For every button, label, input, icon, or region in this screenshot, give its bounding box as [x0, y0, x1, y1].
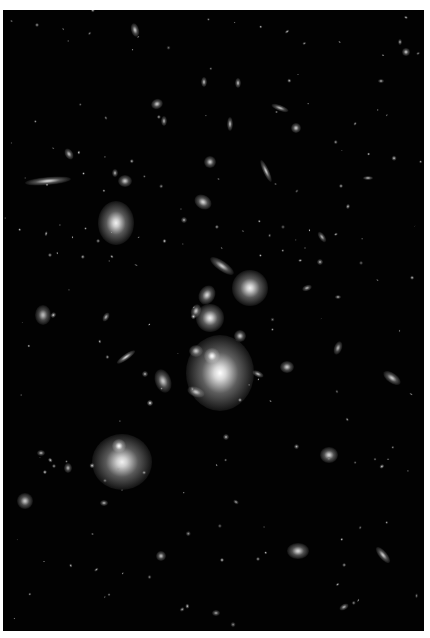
galaxy [373, 457, 377, 461]
galaxy [356, 598, 360, 603]
galaxy [281, 249, 285, 253]
galaxy [391, 445, 395, 449]
galaxy [67, 39, 70, 42]
galaxy [105, 355, 110, 361]
galaxy [256, 557, 260, 561]
galaxy [51, 147, 55, 150]
galaxy [286, 78, 291, 84]
galaxy [100, 500, 108, 506]
galaxy [268, 233, 271, 237]
galaxy [208, 254, 237, 278]
galaxy [71, 236, 73, 239]
galaxy [101, 311, 111, 323]
galaxy [232, 270, 268, 306]
galaxy [186, 531, 191, 536]
galaxy [404, 15, 409, 19]
galaxy [87, 31, 91, 36]
galaxy [335, 582, 340, 586]
galaxy [39, 456, 41, 458]
galaxy [287, 543, 309, 559]
galaxy [335, 389, 339, 394]
galaxy [281, 224, 286, 229]
galaxy [18, 227, 22, 231]
galaxy [332, 340, 344, 356]
galaxy [207, 17, 211, 20]
galaxy [94, 567, 100, 572]
galaxy [295, 189, 300, 194]
galaxy [64, 463, 72, 473]
galaxy [48, 252, 53, 257]
galaxy [208, 67, 212, 71]
galaxy [360, 237, 363, 240]
galaxy [96, 239, 101, 244]
galaxy [134, 263, 138, 267]
galaxy [374, 545, 393, 565]
galaxy [151, 367, 174, 395]
galaxy [103, 595, 106, 599]
galaxy [68, 563, 72, 568]
galaxy [161, 116, 167, 126]
galaxy [33, 120, 37, 124]
galaxy [242, 230, 245, 233]
galaxy [224, 458, 228, 462]
galaxy [262, 526, 265, 529]
galaxy [44, 231, 48, 236]
galaxy [109, 255, 114, 260]
galaxy [385, 114, 389, 118]
galaxy [136, 235, 140, 239]
galaxy [91, 10, 96, 12]
galaxy [259, 25, 263, 29]
galaxy [121, 571, 125, 575]
galaxy [375, 278, 378, 281]
galaxy [234, 22, 236, 24]
galaxy [19, 394, 22, 397]
galaxy [341, 149, 343, 150]
galaxy [304, 247, 306, 249]
galaxy [156, 551, 166, 561]
galaxy [257, 377, 260, 380]
galaxy [129, 158, 134, 163]
galaxy [230, 621, 236, 627]
galaxy [81, 172, 84, 176]
galaxy [339, 184, 343, 188]
galaxy [181, 243, 184, 246]
galaxy [338, 602, 350, 612]
galaxy [206, 114, 208, 116]
galaxy [192, 191, 215, 212]
galaxy [320, 317, 322, 319]
galaxy [118, 175, 132, 187]
galaxy [419, 160, 423, 164]
galaxy [64, 459, 68, 463]
galaxy [104, 156, 106, 158]
galaxy [335, 295, 341, 299]
galaxy [406, 469, 409, 472]
galaxy [354, 461, 357, 464]
galaxy [204, 348, 220, 364]
galaxy [232, 499, 239, 505]
galaxy [10, 20, 13, 22]
galaxy [10, 141, 13, 144]
galaxy [358, 525, 363, 530]
galaxy [391, 155, 397, 161]
galaxy [43, 469, 48, 474]
galaxy [271, 102, 290, 114]
galaxy [78, 103, 82, 107]
galaxy [181, 217, 187, 223]
galaxy [63, 147, 76, 161]
galaxy [108, 259, 111, 262]
galaxy [416, 52, 421, 57]
galaxy [353, 121, 358, 126]
galaxy [334, 140, 338, 144]
galaxy [414, 594, 417, 599]
galaxy [377, 108, 379, 110]
galaxy [217, 178, 220, 180]
galaxy [78, 151, 81, 155]
galaxy [258, 159, 274, 183]
galaxy [106, 592, 111, 597]
galaxy [115, 348, 136, 366]
galaxy [146, 575, 151, 580]
galaxy [410, 275, 415, 280]
galaxy [386, 458, 389, 460]
galaxy [28, 592, 32, 596]
galaxy [4, 217, 7, 220]
